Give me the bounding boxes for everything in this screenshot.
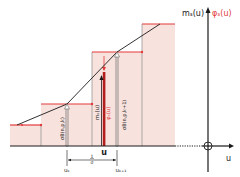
bar-phi-label: φₛ(u): [105, 107, 112, 120]
binomial-k1-label: σB(n,p,k+1): [121, 100, 128, 130]
step-1: [10, 125, 41, 146]
step-4: [142, 24, 175, 146]
binomial-step-interpolation-diagram: 1 σ mₛ(u) φₛ(u) u u uₖ uₖ₊₁ mₛ(u) φₛ(u) …: [0, 0, 240, 177]
step-histogram: [10, 24, 175, 146]
x-axis-arrow-icon: [229, 144, 234, 149]
x-axis-label: u: [226, 154, 231, 163]
u-k-label: uₖ: [64, 167, 70, 173]
bar-ms-label: mₛ(u): [94, 105, 100, 120]
u-k1-label: uₖ₊₁: [116, 167, 127, 173]
arrowhead-icon: [68, 159, 71, 161]
spacing-denominator: σ: [91, 160, 94, 165]
y-axis-arrow-icon: [206, 7, 211, 13]
step-3: [92, 52, 142, 146]
y-axis-label-ms: mₛ(u): [182, 9, 204, 18]
step-2: [41, 104, 92, 146]
arrowhead-icon: [113, 159, 116, 161]
spacing-numerator: 1: [91, 154, 94, 159]
y-axis-label-phi: φₛ(u): [212, 9, 232, 18]
bar-u-label: u: [101, 148, 107, 157]
binomial-k-label: σB(n,p,k): [59, 117, 66, 140]
